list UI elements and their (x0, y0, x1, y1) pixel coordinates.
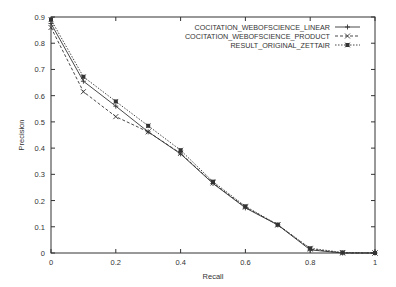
y-tick-label: 0.6 (35, 92, 45, 101)
x-tick-label: 1 (373, 258, 377, 267)
y-tick-label: 0.1 (35, 223, 45, 232)
y-tick-label: 0.2 (35, 197, 45, 206)
y-tick-label: 0.4 (35, 144, 45, 153)
series-1 (49, 25, 378, 256)
series-2 (49, 17, 378, 255)
x-tick-label: 0.2 (111, 258, 121, 267)
x-axis-label: Recall (203, 272, 224, 281)
x-tick-label: 0 (49, 258, 53, 267)
legend-label: COCITATION_WEBOFSCIENCE_PRODUCT (185, 32, 331, 41)
y-tick-label: 0.9 (35, 13, 45, 22)
y-tick-label: 0.7 (35, 65, 45, 74)
y-tick-label: 0 (41, 249, 45, 258)
legend-label: RESULT_ORIGINAL_ZETTAIR (230, 41, 330, 50)
y-tick-label: 0.5 (35, 118, 45, 127)
y-axis-label: Precision (17, 120, 26, 151)
legend-label: COCITATION_WEBOFSCIENCE_LINEAR (194, 23, 330, 32)
legend: COCITATION_WEBOFSCIENCE_LINEARCOCITATION… (185, 23, 360, 50)
x-tick-label: 0.4 (175, 258, 185, 267)
y-tick-label: 0.3 (35, 170, 45, 179)
precision-recall-chart: 00.10.20.30.40.50.60.70.80.900.20.40.60.… (0, 0, 396, 287)
x-tick-label: 0.6 (240, 258, 250, 267)
plot-frame (51, 17, 375, 253)
y-tick-label: 0.8 (35, 39, 45, 48)
x-tick-label: 0.8 (305, 258, 315, 267)
series-0 (49, 21, 378, 255)
